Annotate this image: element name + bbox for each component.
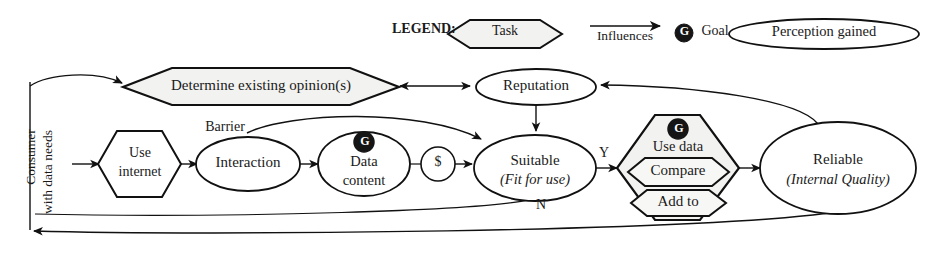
edge-suitable-no-return (35, 196, 539, 215)
edge-consumer-to-determine (30, 75, 122, 86)
node-determine-opinions (123, 68, 399, 105)
node-reliable (760, 122, 916, 214)
legend-goal-badge (675, 24, 693, 42)
flow-diagram-svg: use data --> bottom return into spine --… (0, 0, 926, 254)
legend-perception-ellipse (729, 19, 919, 49)
node-data-content (318, 132, 410, 196)
edge-reliable-to-reputation (601, 85, 818, 124)
node-use-data (617, 115, 739, 220)
legend-task-hexagon (448, 20, 562, 48)
node-money (421, 147, 455, 181)
node-suitable (474, 135, 596, 201)
diagram-canvas: use data --> bottom return into spine --… (0, 0, 926, 254)
node-interaction (196, 137, 300, 191)
node-reputation (476, 69, 596, 105)
node-use-internet (98, 131, 181, 197)
